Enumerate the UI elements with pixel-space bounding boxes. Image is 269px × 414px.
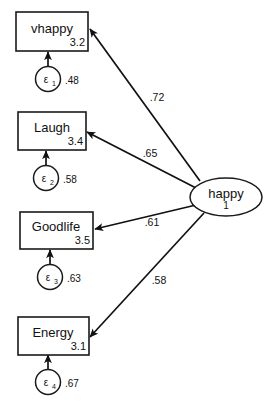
loading-label-goodlife: .61 <box>145 216 160 228</box>
loading-label-laugh: .65 <box>143 147 158 159</box>
latent-value-happy: 1 <box>223 200 229 211</box>
error-subscript-1: 1 <box>52 80 56 87</box>
indicator-value-energy: 3.1 <box>71 340 86 352</box>
error-node-3[interactable]: ε 3 .63 <box>38 265 82 290</box>
error-node-4[interactable]: ε 4 .67 <box>36 370 80 395</box>
loading-label-vhappy: .72 <box>150 91 165 103</box>
indicator-label-laugh: Laugh <box>34 120 70 135</box>
indicator-value-vhappy: 3.2 <box>70 36 85 48</box>
error-symbol-2: ε <box>42 173 47 184</box>
diagram-canvas: vhappy 3.2 Laugh 3.4 Goodlife 3.5 Energy… <box>0 0 269 414</box>
indicator-value-goodlife: 3.5 <box>75 234 90 246</box>
error-subscript-2: 2 <box>50 179 54 186</box>
error-value-3: .63 <box>67 273 81 284</box>
error-value-2: .58 <box>63 174 77 185</box>
error-subscript-4: 4 <box>52 383 56 390</box>
error-value-1: .48 <box>65 75 79 86</box>
indicator-node-laugh[interactable]: Laugh 3.4 <box>18 112 86 150</box>
indicator-label-goodlife: Goodlife <box>32 219 80 234</box>
error-symbol-1: ε <box>44 74 49 85</box>
indicator-node-vhappy[interactable]: vhappy 3.2 <box>16 12 88 51</box>
latent-label-happy: happy <box>208 186 244 201</box>
indicator-label-energy: Energy <box>32 325 74 340</box>
sem-path-diagram: vhappy 3.2 Laugh 3.4 Goodlife 3.5 Energy… <box>0 0 269 414</box>
loading-path-energy <box>90 213 204 337</box>
indicator-value-laugh: 3.4 <box>68 135 83 147</box>
error-node-2[interactable]: ε 2 .58 <box>34 166 78 191</box>
indicator-node-goodlife[interactable]: Goodlife 3.5 <box>20 212 93 249</box>
error-value-4: .67 <box>65 378 79 389</box>
loading-path-laugh <box>87 132 196 188</box>
error-subscript-3: 3 <box>54 278 58 285</box>
indicator-label-vhappy: vhappy <box>31 21 73 36</box>
error-node-1[interactable]: ε 1 .48 <box>36 67 80 92</box>
indicator-node-energy[interactable]: Energy 3.1 <box>18 317 89 355</box>
error-symbol-3: ε <box>46 272 51 283</box>
loading-label-energy: .58 <box>152 274 167 286</box>
latent-node-happy[interactable]: happy 1 <box>190 178 262 216</box>
error-symbol-4: ε <box>44 377 49 388</box>
